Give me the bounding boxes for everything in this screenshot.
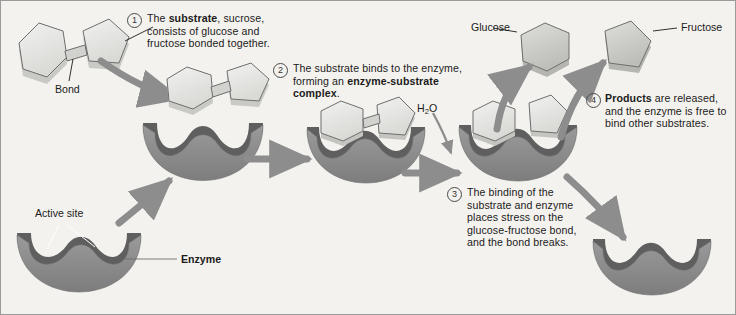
arrow-step1-to-step2 [101,61,177,98]
label-bond: Bond [55,83,80,95]
step-1-number: 1 [127,13,142,28]
label-active-site: Active site [35,207,83,219]
label-fructose: Fructose [681,21,722,33]
enzyme-action-figure: 1 The substrate, sucrose, consists of gl… [0,0,736,315]
step-1-caption: The substrate, sucrose, consists of gluc… [147,12,295,50]
label-water: H2O [417,102,437,118]
substrate-above-enzyme [167,63,269,115]
step-2-number: 2 [273,63,288,78]
step-4-number: 4 [586,93,601,108]
water-oxygen: O [429,102,437,114]
water-symbol: H [417,102,425,114]
arrow-enzyme-entry [119,181,169,223]
arrow-water-entry [433,113,451,153]
enzyme-empty-left [143,123,263,181]
step-4-caption: Products are released, and the enzyme is… [605,92,733,130]
enzyme-free-recycled [593,239,711,295]
substrate-free-top-left [19,19,153,84]
label-glucose: Glucose [471,21,510,33]
step-2-caption: The substrate binds to the enzyme, formi… [293,62,469,100]
label-enzyme: Enzyme [181,253,221,265]
product-fructose [605,21,677,73]
step-3-caption: The binding of the substrate and enzyme … [467,186,583,249]
step-3-number: 3 [447,187,462,202]
glycosidic-bond [65,45,87,61]
enzyme-labelled-bottom-left [17,225,177,292]
diagram-artwork [1,1,736,315]
